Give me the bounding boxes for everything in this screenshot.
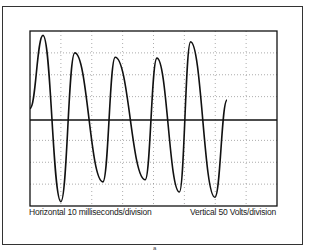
voltage-trace [30, 35, 227, 201]
horizontal-scale-label: Horizontal 10 milliseconds/division [29, 207, 151, 217]
grid [30, 31, 277, 206]
vertical-scale-label: Vertical 50 Volts/division [190, 207, 276, 217]
page-mark: a [153, 245, 156, 251]
